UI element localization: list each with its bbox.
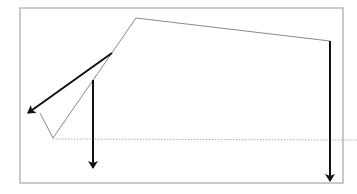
outer-frame [20, 8, 343, 183]
dotted-baseline [53, 139, 357, 140]
diagram-canvas [0, 0, 357, 194]
left-diagonal-arrow-icon [28, 53, 112, 113]
force-arrows [28, 41, 330, 181]
shape-outline [40, 18, 330, 138]
force-diagram [0, 0, 357, 194]
